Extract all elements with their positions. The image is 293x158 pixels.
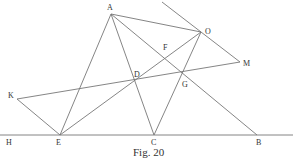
point-label-k: K <box>8 91 14 100</box>
segment-om-extended <box>162 2 240 62</box>
segment-oe <box>60 32 201 135</box>
point-label-f: F <box>163 43 168 52</box>
segment-ke <box>17 99 60 135</box>
point-label-h: H <box>6 138 12 147</box>
figure-caption: Fig. 20 <box>133 146 165 158</box>
segment-ao <box>111 14 201 32</box>
segment-oc <box>154 32 201 135</box>
point-label-d: D <box>134 70 140 79</box>
point-label-e: E <box>56 138 61 147</box>
point-label-o: O <box>205 27 211 36</box>
point-label-g: G <box>182 80 188 89</box>
point-label-a: A <box>107 3 113 12</box>
geometry-figure: AOFMDGKECBH Fig. 20 <box>0 0 293 158</box>
point-label-b: B <box>256 138 261 147</box>
point-label-m: M <box>243 59 250 68</box>
